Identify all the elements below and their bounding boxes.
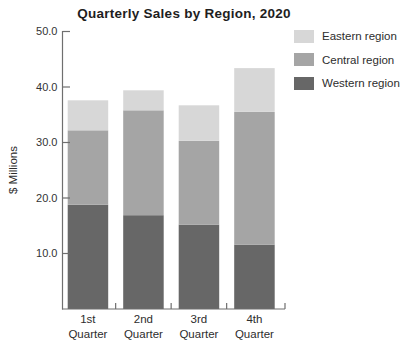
bar-segment <box>68 130 109 204</box>
bar-segment <box>179 225 220 309</box>
bar-segment <box>234 245 275 309</box>
bar-segment <box>123 110 164 215</box>
y-tick-label: 10.0 <box>36 247 57 259</box>
bar-segment <box>123 90 164 110</box>
y-axis-title: $ Millions <box>7 146 19 194</box>
x-category-label: 3rdQuarter <box>179 313 218 340</box>
y-tick-label: 50.0 <box>36 25 57 37</box>
y-tick-label: 20.0 <box>36 192 57 204</box>
y-tick-label: 40.0 <box>36 81 57 93</box>
bar-segment <box>68 100 109 130</box>
bar-segment <box>234 68 275 112</box>
bar-segment <box>123 215 164 309</box>
plot-area: 10.020.030.040.050.01stQuarter2ndQuarter… <box>0 0 418 351</box>
bar-segment <box>234 112 275 245</box>
bar-segment <box>179 105 220 141</box>
x-category-label: 4thQuarter <box>235 313 274 340</box>
x-category-label: 2ndQuarter <box>124 313 163 340</box>
x-category-label: 1stQuarter <box>68 313 107 340</box>
chart-canvas: Quarterly Sales by Region, 2020 Eastern … <box>0 0 418 351</box>
y-tick-label: 30.0 <box>36 136 57 148</box>
bar-segment <box>179 141 220 225</box>
bar-segment <box>68 205 109 309</box>
